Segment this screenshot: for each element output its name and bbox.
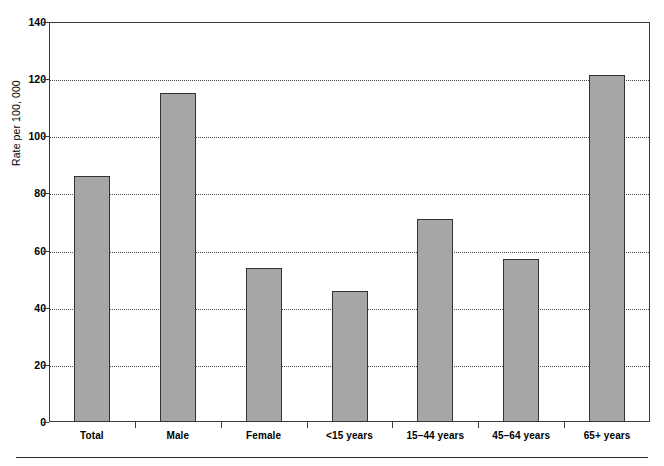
bar: [246, 268, 282, 422]
y-axis-tick-label: 120: [12, 74, 46, 84]
x-axis-tick-label: 65+ years: [552, 430, 662, 441]
y-axis-tick-label: 40: [12, 303, 46, 313]
y-axis-tick-label: 100: [12, 131, 46, 141]
y-axis-title: Rate per 100, 000: [10, 6, 26, 166]
bar: [332, 291, 368, 422]
y-axis-tick-label: 140: [12, 17, 46, 27]
bar: [417, 219, 453, 422]
x-axis-tick-mark: [221, 422, 222, 428]
y-axis-tick-mark: [43, 422, 49, 423]
bar-chart-figure: Rate per 100, 000 020406080100120140 Tot…: [0, 0, 664, 466]
y-axis-tick-label: 20: [12, 360, 46, 370]
bar: [503, 259, 539, 422]
footer-divider: [16, 457, 648, 458]
x-axis-tick-mark: [307, 422, 308, 428]
bar-series: [49, 22, 650, 422]
y-axis-tick-label: 60: [12, 246, 46, 256]
bar: [74, 176, 110, 422]
x-axis-tick-mark: [392, 422, 393, 428]
bar: [160, 93, 196, 422]
x-axis-tick-mark: [564, 422, 565, 428]
x-axis-tick-mark: [478, 422, 479, 428]
y-axis-tick-label: 0: [12, 417, 46, 427]
x-axis-tick-mark: [135, 422, 136, 428]
bar: [589, 75, 625, 422]
y-axis-tick-label: 80: [12, 188, 46, 198]
